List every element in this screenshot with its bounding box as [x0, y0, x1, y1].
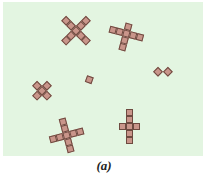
- figure-caption: (a): [0, 158, 208, 174]
- square-tile: [133, 123, 140, 130]
- square-tile: [153, 66, 163, 76]
- square-tile: [126, 130, 133, 137]
- square-tile: [85, 75, 94, 84]
- square-tile: [75, 127, 84, 136]
- square-tile: [118, 42, 127, 51]
- square-tile: [126, 109, 133, 116]
- square-tile: [126, 116, 133, 123]
- square-tile: [163, 66, 173, 76]
- square-tile: [124, 22, 133, 31]
- square-tile: [42, 90, 52, 100]
- square-tile: [65, 144, 74, 153]
- square-tile: [119, 123, 126, 130]
- square-tile: [126, 123, 133, 130]
- square-tile: [126, 137, 133, 144]
- square-tile: [48, 134, 57, 143]
- figure-panel: [3, 2, 203, 156]
- square-tile: [135, 32, 144, 41]
